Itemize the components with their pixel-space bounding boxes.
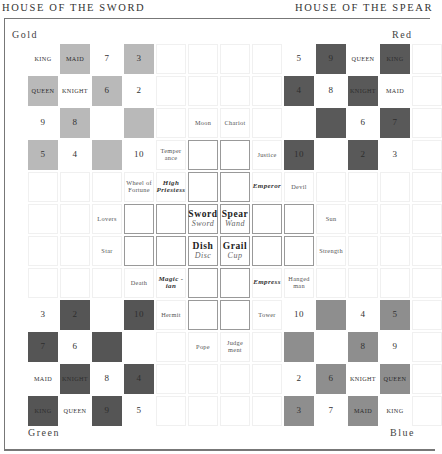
board-square[interactable]: Devil bbox=[284, 172, 314, 202]
board-square[interactable] bbox=[92, 300, 122, 330]
board-square[interactable] bbox=[220, 140, 250, 170]
board-square[interactable] bbox=[316, 140, 346, 170]
board-square[interactable]: 5 bbox=[380, 300, 410, 330]
board-square[interactable]: SwordSword bbox=[188, 204, 218, 234]
board-square[interactable] bbox=[316, 332, 346, 362]
board-square[interactable] bbox=[412, 396, 442, 426]
board-square[interactable]: Empress bbox=[252, 268, 282, 298]
board-square[interactable]: 9 bbox=[28, 108, 58, 138]
board-square[interactable]: 3 bbox=[380, 140, 410, 170]
board-square[interactable] bbox=[220, 364, 250, 394]
board-square[interactable]: KNIGHT bbox=[60, 76, 90, 106]
board-square[interactable]: QUEEN bbox=[28, 76, 58, 106]
board-square[interactable]: 2 bbox=[124, 76, 154, 106]
board-square[interactable]: Hermit bbox=[156, 300, 186, 330]
board-square[interactable] bbox=[252, 204, 282, 234]
board-square[interactable] bbox=[220, 396, 250, 426]
board-square[interactable]: 7 bbox=[28, 332, 58, 362]
board-square[interactable]: Moon bbox=[188, 108, 218, 138]
board-square[interactable]: Death bbox=[124, 268, 154, 298]
board-square[interactable]: 7 bbox=[380, 108, 410, 138]
board-square[interactable] bbox=[348, 236, 378, 266]
board-square[interactable]: 8 bbox=[316, 76, 346, 106]
board-square[interactable] bbox=[156, 108, 186, 138]
board-square[interactable]: 9 bbox=[92, 396, 122, 426]
board-square[interactable]: Strength bbox=[316, 236, 346, 266]
board-square[interactable] bbox=[412, 140, 442, 170]
board-square[interactable] bbox=[124, 204, 154, 234]
board-square[interactable]: Lovers bbox=[92, 204, 122, 234]
board-square[interactable]: Hanged man bbox=[284, 268, 314, 298]
board-square[interactable]: 2 bbox=[348, 140, 378, 170]
board-square[interactable] bbox=[92, 268, 122, 298]
board-square[interactable] bbox=[348, 204, 378, 234]
board-square[interactable] bbox=[412, 364, 442, 394]
board-square[interactable]: Justice bbox=[252, 140, 282, 170]
board-square[interactable] bbox=[60, 236, 90, 266]
board-square[interactable]: Judge ment bbox=[220, 332, 250, 362]
board-square[interactable] bbox=[156, 236, 186, 266]
board-square[interactable]: 6 bbox=[348, 108, 378, 138]
board-square[interactable] bbox=[124, 332, 154, 362]
board-square[interactable]: 8 bbox=[92, 364, 122, 394]
board-square[interactable]: MAID bbox=[28, 364, 58, 394]
board-square[interactable]: 5 bbox=[284, 44, 314, 74]
board-square[interactable]: Chariot bbox=[220, 108, 250, 138]
board-square[interactable] bbox=[92, 140, 122, 170]
board-square[interactable] bbox=[252, 332, 282, 362]
board-square[interactable] bbox=[60, 172, 90, 202]
board-square[interactable] bbox=[156, 364, 186, 394]
board-square[interactable] bbox=[316, 108, 346, 138]
board-square[interactable] bbox=[380, 268, 410, 298]
board-square[interactable] bbox=[60, 268, 90, 298]
board-square[interactable]: 3 bbox=[28, 300, 58, 330]
board-square[interactable] bbox=[284, 332, 314, 362]
board-square[interactable] bbox=[188, 300, 218, 330]
board-square[interactable] bbox=[252, 76, 282, 106]
board-square[interactable] bbox=[412, 108, 442, 138]
board-square[interactable] bbox=[28, 204, 58, 234]
board-square[interactable]: 4 bbox=[348, 300, 378, 330]
board-square[interactable]: 6 bbox=[92, 76, 122, 106]
board-square[interactable]: 4 bbox=[124, 364, 154, 394]
board-square[interactable] bbox=[380, 204, 410, 234]
board-square[interactable]: GrailCup bbox=[220, 236, 250, 266]
board-square[interactable]: KING bbox=[28, 396, 58, 426]
board-square[interactable]: SpearWand bbox=[220, 204, 250, 234]
board-square[interactable]: 4 bbox=[284, 76, 314, 106]
board-square[interactable] bbox=[252, 44, 282, 74]
board-square[interactable] bbox=[252, 236, 282, 266]
board-square[interactable]: DishDisc bbox=[188, 236, 218, 266]
board-square[interactable] bbox=[348, 268, 378, 298]
board-square[interactable] bbox=[188, 172, 218, 202]
board-square[interactable] bbox=[412, 236, 442, 266]
board-square[interactable] bbox=[124, 108, 154, 138]
board-square[interactable]: 5 bbox=[124, 396, 154, 426]
board-square[interactable] bbox=[252, 364, 282, 394]
board-square[interactable] bbox=[188, 44, 218, 74]
board-square[interactable]: MAID bbox=[380, 76, 410, 106]
board-square[interactable]: MAID bbox=[348, 396, 378, 426]
board-square[interactable] bbox=[156, 204, 186, 234]
board-square[interactable]: 10 bbox=[124, 300, 154, 330]
board-square[interactable] bbox=[156, 332, 186, 362]
board-square[interactable] bbox=[284, 236, 314, 266]
board-square[interactable]: KING bbox=[380, 396, 410, 426]
board-square[interactable] bbox=[412, 172, 442, 202]
board-square[interactable] bbox=[220, 76, 250, 106]
board-square[interactable] bbox=[60, 204, 90, 234]
board-square[interactable]: 5 bbox=[28, 140, 58, 170]
board-square[interactable]: 3 bbox=[284, 396, 314, 426]
board-square[interactable]: 2 bbox=[60, 300, 90, 330]
board-square[interactable] bbox=[220, 300, 250, 330]
board-square[interactable]: Sun bbox=[316, 204, 346, 234]
board-square[interactable] bbox=[284, 204, 314, 234]
board-square[interactable]: 7 bbox=[316, 396, 346, 426]
board-square[interactable] bbox=[316, 268, 346, 298]
board-square[interactable] bbox=[252, 396, 282, 426]
board-square[interactable]: 7 bbox=[92, 44, 122, 74]
board-square[interactable]: Wheel of Fortune bbox=[124, 172, 154, 202]
board-square[interactable] bbox=[188, 76, 218, 106]
board-square[interactable] bbox=[28, 236, 58, 266]
board-square[interactable]: KING bbox=[28, 44, 58, 74]
